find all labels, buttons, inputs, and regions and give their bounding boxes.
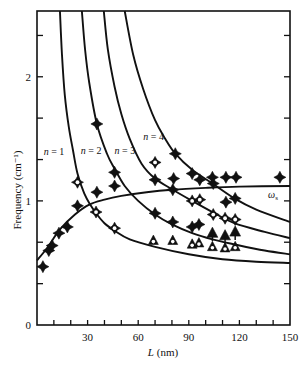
marker-core xyxy=(152,177,157,182)
x-tick-label: 150 xyxy=(282,331,299,343)
y-tick-label: 0 xyxy=(26,319,32,331)
plot-frame xyxy=(37,11,290,325)
marker-core xyxy=(196,222,201,227)
marker-hole xyxy=(211,213,215,217)
marker-hole xyxy=(197,242,201,246)
x-tick-label: 60 xyxy=(133,331,145,343)
chart: 306090120150 012 n = 1n = 2n = 3n = 4ωs … xyxy=(0,0,308,365)
marker-core xyxy=(94,121,99,126)
x-axis-label-unit: (nm) xyxy=(154,346,178,359)
x-tick-label: 90 xyxy=(183,331,195,343)
y-axis-label: Frequency (cm⁻¹) xyxy=(11,150,24,229)
marker-hole xyxy=(153,161,157,165)
marker-core xyxy=(233,196,238,201)
curve-n2 xyxy=(82,11,290,254)
curve-n4 xyxy=(125,11,290,222)
marker-core xyxy=(40,264,45,269)
marker-core xyxy=(112,183,117,188)
marker-core xyxy=(152,211,157,216)
marker-hole xyxy=(233,218,237,222)
y-tick-label: 1 xyxy=(26,195,32,207)
marker-core xyxy=(56,231,61,236)
marker-core xyxy=(190,171,195,176)
marker-hole xyxy=(190,244,194,248)
curve-label: n = 4 xyxy=(143,131,164,142)
marker-hole xyxy=(113,226,117,230)
marker-hole xyxy=(233,246,237,250)
marker-core xyxy=(65,224,70,229)
marker-core xyxy=(223,200,228,205)
x-tick-label: 120 xyxy=(231,331,248,343)
y-tick-label: 2 xyxy=(26,71,32,83)
curve-label: n = 2 xyxy=(81,145,102,156)
marker-core xyxy=(112,170,117,175)
marker-core xyxy=(211,181,216,186)
x-axis-label: L (nm) xyxy=(147,346,179,359)
marker-core xyxy=(170,219,175,224)
curve-label: ωs xyxy=(268,189,278,202)
curve-label: n = 1 xyxy=(44,146,65,157)
marker-hole xyxy=(223,247,227,251)
curve-label: n = 3 xyxy=(115,145,136,156)
marker-hole xyxy=(171,240,175,244)
marker-hole xyxy=(223,216,227,220)
axes-box xyxy=(37,11,290,325)
marker-core xyxy=(277,175,282,180)
marker-core xyxy=(173,151,178,156)
y-axis-tick-labels: 012 xyxy=(26,71,32,331)
marker-hole xyxy=(211,246,215,250)
x-axis-label-var: L xyxy=(147,346,154,358)
marker-hole xyxy=(94,210,98,214)
marker-core xyxy=(233,175,238,180)
x-axis-tick-labels: 306090120150 xyxy=(82,331,299,343)
marker-core xyxy=(50,243,55,248)
marker-core xyxy=(171,176,176,181)
curve-labels: n = 1n = 2n = 3n = 4ωs xyxy=(44,131,278,202)
marker-core xyxy=(170,187,175,192)
x-tick-label: 30 xyxy=(82,331,94,343)
marker-core xyxy=(75,203,80,208)
marker-hole xyxy=(198,198,202,202)
marker-hole xyxy=(152,240,156,244)
marker-core xyxy=(94,190,99,195)
marker-core xyxy=(197,177,202,182)
marker-hole xyxy=(76,180,80,184)
marker-core xyxy=(223,175,228,180)
